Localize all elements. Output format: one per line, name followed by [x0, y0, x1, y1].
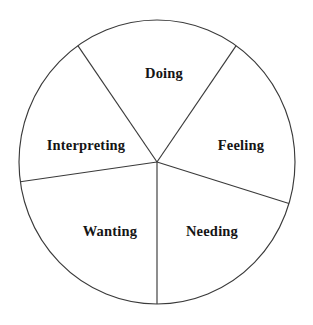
sector-label-feeling: Feeling — [218, 138, 265, 153]
sector-label-interpreting: Interpreting — [47, 138, 126, 153]
sector-label-doing: Doing — [145, 66, 183, 81]
wheel-diagram: Doing Feeling Needing Wanting Interpreti… — [0, 0, 313, 325]
wheel-graphic — [0, 0, 313, 325]
sector-label-needing: Needing — [186, 224, 238, 239]
sector-label-wanting: Wanting — [83, 224, 138, 239]
